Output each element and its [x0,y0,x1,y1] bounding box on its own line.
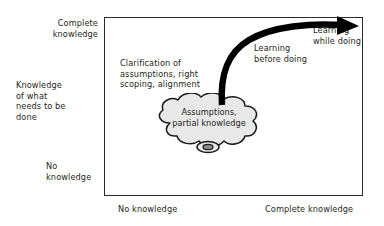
y-axis-title: Knowledge of what needs to be done [16,80,98,122]
cloud-tail-bubble-inner [203,144,213,149]
y-axis-bottom-label: No knowledge [46,161,100,182]
diagram-canvas: Complete knowledge Knowledge of what nee… [0,0,384,226]
y-axis-top-label: Complete knowledge [46,18,98,39]
x-axis-right-label: Complete knowledge [265,204,353,215]
growth-arrow [201,13,361,105]
x-axis-left-label: No knowledge [118,204,177,215]
arrowhead [337,16,359,35]
growth-arrow-shape [201,13,361,105]
plot-frame: Clarification of assumptions, right scop… [104,17,363,196]
cloud-label: Assumptions, partial knowledge [148,107,270,128]
